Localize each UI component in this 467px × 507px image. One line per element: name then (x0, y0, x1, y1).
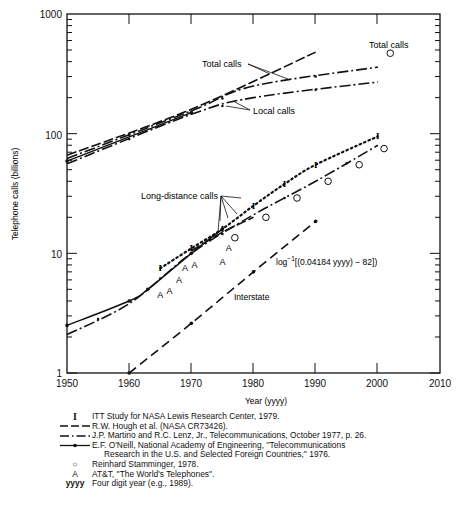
x-tick-1960: 1960 (118, 378, 141, 389)
a-marker-icon: A (191, 260, 197, 270)
x-tick-2000: 2000 (366, 378, 389, 389)
x-axis-label: Year (yyyy) (245, 396, 287, 406)
solid-dot-line-icon (58, 443, 92, 448)
y-axis-label: Telephone calls (billions) (10, 148, 20, 241)
i-beam-marker-icon: I (376, 131, 380, 141)
circle-marker-icon (381, 145, 388, 152)
i-beam-marker-icon: I (252, 201, 256, 211)
plot-frame (67, 14, 440, 373)
legend-text: Four digit year (e.g., 1989). (92, 479, 193, 489)
label-long-distance: Long-distance calls (141, 191, 219, 201)
a-marker-icon: A (167, 286, 173, 296)
chart: 1950 1960 1970 1980 1990 2000 2010 1 10 … (0, 0, 467, 410)
series-0 (67, 52, 316, 155)
y-tick-labels: 1 10 100 1000 (40, 9, 63, 379)
label-total-calls: Total calls (202, 59, 242, 69)
y-tick-10: 10 (51, 249, 63, 260)
i-beam-marker-icon: I (58, 412, 92, 422)
a-marker-icon: A (176, 275, 182, 285)
label-total-calls-circle: Total calls (369, 40, 409, 50)
label-formula: log−1[(0.04184 yyyy) − 82]) (276, 255, 377, 267)
bottom-x-ticks (129, 363, 377, 373)
series-9 (232, 50, 394, 241)
circle-marker-icon (387, 50, 394, 57)
circle-marker-icon (232, 234, 239, 241)
circle-marker-icon (294, 195, 301, 202)
yyyy-symbol: yyyy (58, 479, 92, 489)
x-tick-1980: 1980 (242, 378, 265, 389)
i-beam-marker-icon: I (158, 263, 162, 273)
label-interstate: Interstate (234, 292, 270, 302)
label-local-calls: Local calls (253, 106, 296, 116)
series-8 (127, 220, 317, 375)
a-marker-icon: A (157, 290, 163, 300)
series-1 (67, 67, 378, 158)
series-5 (67, 145, 378, 334)
series-2 (67, 82, 378, 164)
y-tick-100: 100 (45, 130, 62, 141)
top-x-ticks (129, 14, 377, 24)
y-tick-1000: 1000 (40, 9, 63, 20)
circle-marker-icon (325, 178, 332, 185)
series-layer: IIIIIIIAAAAAAA (65, 50, 393, 375)
dash-dot-line-icon (58, 434, 92, 438)
circle-marker-icon (263, 214, 270, 221)
a-marker-icon: A (219, 257, 225, 267)
a-marker-icon: A (182, 263, 188, 273)
x-tick-1950: 1950 (56, 378, 79, 389)
i-beam-marker-icon: I (314, 160, 318, 170)
x-tick-1970: 1970 (180, 378, 203, 389)
x-tick-2010: 2010 (429, 378, 452, 389)
long-dash-line-icon (58, 424, 92, 428)
circle-marker-icon (356, 161, 363, 168)
legend: I ITT Study for NASA Lewis Research Cent… (58, 412, 458, 489)
a-marker-icon: A (226, 243, 232, 253)
x-tick-labels: 1950 1960 1970 1980 1990 2000 2010 (56, 378, 452, 389)
legend-item-yyyy: yyyy Four digit year (e.g., 1989). (58, 479, 458, 489)
y-ticks (67, 19, 440, 373)
i-beam-marker-icon: I (283, 179, 287, 189)
x-tick-1990: 1990 (304, 378, 327, 389)
y-tick-1: 1 (56, 368, 62, 379)
series-3 (65, 111, 193, 163)
